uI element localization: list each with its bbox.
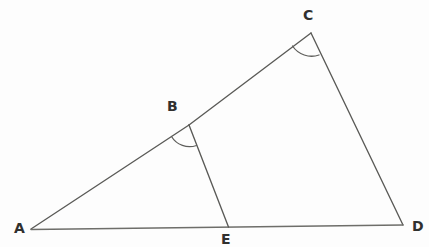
geometry-figure: A B C D E , g [0, 0, 429, 247]
segment-cd [311, 33, 403, 225]
angle-arc-c [293, 46, 320, 56]
figure-canvas [0, 0, 429, 247]
segment-ab [31, 125, 189, 229]
vertex-label-c: C [303, 8, 313, 22]
vertex-label-b: B [167, 99, 178, 113]
segment-be [189, 125, 229, 227]
vertex-label-a: A [14, 221, 25, 235]
segment-ad [31, 225, 403, 230]
vertex-label-e: E [221, 232, 231, 246]
vertex-label-d: D [412, 219, 424, 233]
angle-arc-b [172, 137, 197, 147]
